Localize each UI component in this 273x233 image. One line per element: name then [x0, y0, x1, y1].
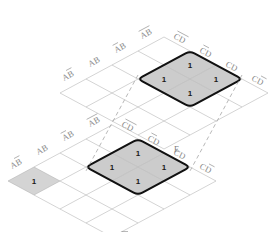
diagram-canvas: 1111ABABABABCDCDCDCDE11111ABABABABCDCDCD…	[0, 0, 273, 232]
cell-value-single: 1	[32, 177, 37, 186]
bottom-plane: 11111ABABABABCDCDCDCDE	[8, 114, 216, 232]
cell-value: 1	[188, 61, 193, 70]
cell-value: 1	[214, 75, 219, 84]
ab-label: AB	[34, 142, 50, 157]
cell-value: 1	[188, 89, 193, 98]
cd-label: CD	[172, 31, 188, 46]
cell-value: 1	[136, 149, 141, 158]
karnaugh-map-diagram: 1111ABABABABCDCDCDCDE11111ABABABABCDCDCD…	[0, 0, 273, 232]
svg-text:CD: CD	[198, 161, 213, 176]
svg-text:AB: AB	[8, 156, 24, 171]
svg-text:AB: AB	[112, 40, 128, 55]
bottom-plane-label: E	[122, 232, 129, 233]
cd-label: CD	[120, 119, 136, 134]
cell-value: 1	[110, 163, 115, 172]
svg-text:CD: CD	[172, 31, 187, 46]
cell-value: 1	[162, 163, 167, 172]
svg-text:CD: CD	[250, 73, 265, 88]
svg-text:AB: AB	[34, 142, 50, 157]
cd-label: CD	[198, 161, 214, 176]
ab-label: AB	[60, 128, 76, 143]
top-plane-ab-labels: ABABABAB	[60, 26, 154, 83]
svg-text:AB: AB	[86, 114, 102, 129]
bottom-plane-ab-labels: ABABABAB	[8, 114, 102, 171]
ab-label: AB	[86, 114, 102, 129]
ab-label: AB	[112, 40, 128, 55]
top-plane: 1111ABABABABCDCDCDCDE	[60, 26, 268, 154]
ab-label: AB	[86, 54, 102, 69]
ab-label: AB	[8, 156, 24, 171]
cell-value: 1	[162, 75, 167, 84]
svg-text:AB: AB	[60, 128, 76, 143]
svg-text:AB: AB	[60, 68, 76, 83]
svg-text:AB: AB	[86, 54, 102, 69]
cd-label: CD	[250, 73, 266, 88]
svg-text:AB: AB	[138, 26, 154, 41]
ab-label: AB	[60, 68, 76, 83]
cell-value: 1	[136, 177, 141, 186]
ab-label: AB	[138, 26, 154, 41]
svg-text:CD: CD	[120, 119, 135, 134]
